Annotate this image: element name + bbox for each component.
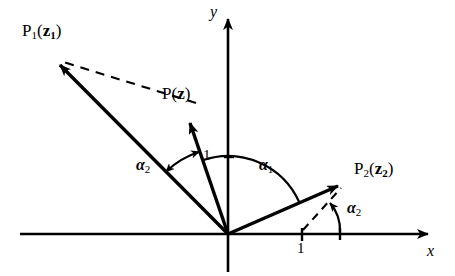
x-axis-label: x	[427, 243, 434, 259]
angle-alpha2-right-arc	[330, 203, 340, 232]
vector-p2-shaft	[228, 186, 338, 234]
vectors-group	[60, 65, 338, 234]
angle-alpha1-label: α1	[259, 157, 273, 175]
vector-p2-label: P2(z2)	[354, 160, 393, 179]
y-axis-label: y	[210, 4, 217, 20]
vector-p1-label: P1(z1)	[22, 22, 61, 41]
y-unit-tick-label: 1	[203, 148, 211, 163]
angle-alpha1-arc	[203, 156, 300, 202]
vector-diagram-figure: y x 1 1 P1(z1) P(z) P2(z2) α1 α2 α2	[0, 0, 455, 276]
axes-group	[20, 19, 428, 272]
angle-alpha2-right-label: α2	[347, 200, 361, 218]
angle-alpha2-right-sub: 2	[356, 206, 362, 218]
angle-alpha2-left-arc	[166, 152, 200, 172]
angle-alpha2-right-glyph: α	[347, 199, 356, 216]
angle-alpha1-glyph: α	[259, 156, 268, 173]
vector-p-label: P(z)	[162, 85, 190, 102]
x-unit-tick-label: 1	[297, 241, 305, 256]
angle-alpha2-left-label: α2	[136, 157, 150, 175]
angle-alpha1-sub: 1	[268, 163, 274, 175]
angle-arcs-group	[166, 152, 340, 232]
angle-alpha2-left-sub: 2	[145, 163, 151, 175]
diagram-canvas	[0, 0, 455, 276]
vector-p-label-arg: z	[177, 84, 185, 103]
vector-p-shaft	[190, 123, 228, 234]
angle-alpha2-left-glyph: α	[136, 156, 145, 173]
